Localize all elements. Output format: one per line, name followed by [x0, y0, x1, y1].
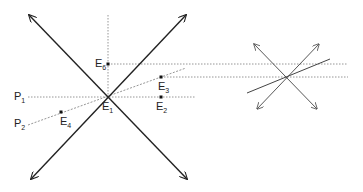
small-x-diagram [247, 44, 330, 109]
label-e1: E1 [102, 101, 113, 114]
point-e4 [60, 111, 63, 114]
label-e2: E2 [156, 101, 167, 114]
small-axis-nw-se [254, 44, 317, 109]
label-p1: P1 [14, 91, 25, 104]
label-e3: E3 [158, 81, 169, 94]
point-e2 [160, 96, 163, 99]
point-e6 [107, 63, 110, 66]
label-e6: E6 [95, 58, 106, 71]
label-e4: E4 [60, 116, 71, 129]
diagram-canvas [0, 0, 363, 192]
label-p2: P2 [14, 118, 25, 131]
point-e3 [160, 76, 163, 79]
guide-lines [28, 15, 348, 125]
